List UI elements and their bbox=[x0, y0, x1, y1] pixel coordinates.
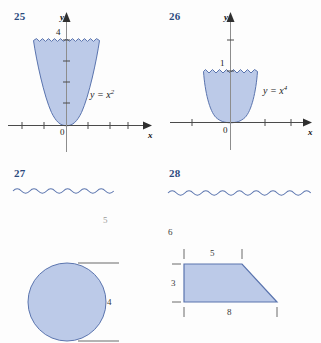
exercise-26-panel: 26 1 0 y x y = x4 bbox=[160, 0, 321, 160]
exercise-28-panel: 28 6 5 3 8 bbox=[160, 160, 321, 343]
x-axis-label-25: x bbox=[148, 130, 153, 140]
axis-of-revolution-28 bbox=[168, 191, 311, 195]
bottom-side-dimension-label-28: 8 bbox=[227, 307, 232, 317]
x-axis-arrow-25 bbox=[143, 122, 152, 130]
diameter-dimension-label-27: 4 bbox=[107, 297, 112, 307]
curve-equation-25: y = x2 bbox=[90, 88, 114, 100]
curve-equation-exponent-26: 4 bbox=[284, 84, 287, 91]
axis-of-revolution-27 bbox=[13, 189, 114, 194]
curve-equation-26: y = x4 bbox=[263, 84, 287, 96]
x-axis-label-26: x bbox=[308, 127, 313, 137]
figure-27-svg bbox=[0, 160, 160, 343]
curve-equation-base-26: y = x bbox=[263, 85, 284, 96]
exercise-27-panel: 27 5 4 bbox=[0, 160, 160, 343]
y-axis-label-26: y bbox=[224, 12, 228, 22]
graph-26-svg bbox=[160, 0, 321, 160]
origin-label-26: 0 bbox=[223, 125, 228, 135]
x-axis-arrow-26 bbox=[303, 119, 312, 127]
figure-28-svg bbox=[160, 160, 321, 343]
y-tick-label-26: 1 bbox=[220, 58, 225, 68]
top-side-dimension-label-28: 5 bbox=[210, 248, 215, 258]
worksheet-page: 25 4 bbox=[0, 0, 321, 343]
exercise-25-panel: 25 4 bbox=[0, 0, 160, 160]
axis-dimension-label-28: 6 bbox=[168, 227, 173, 237]
y-axis-label-25: y bbox=[60, 12, 64, 22]
y-tick-label-25: 4 bbox=[56, 27, 61, 37]
curve-equation-exponent-25: 2 bbox=[111, 88, 114, 95]
graph-25-svg bbox=[0, 0, 160, 160]
left-side-dimension-label-28: 3 bbox=[171, 278, 176, 288]
origin-label-25: 0 bbox=[60, 127, 65, 137]
curve-equation-base-25: y = x bbox=[90, 89, 111, 100]
trapezoid-shape-28 bbox=[184, 264, 277, 302]
height-dimension-label-27: 5 bbox=[103, 215, 108, 225]
circle-shape-27 bbox=[28, 263, 106, 341]
